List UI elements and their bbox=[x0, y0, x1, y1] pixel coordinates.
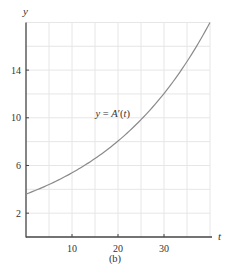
svg-text:2: 2 bbox=[16, 208, 21, 219]
svg-text:10: 10 bbox=[11, 112, 21, 123]
chart: 102030261014 y = A′(t) t y bbox=[0, 0, 230, 279]
svg-text:14: 14 bbox=[11, 65, 21, 76]
tick-labels: 102030261014 bbox=[11, 65, 169, 254]
x-axis-label: t bbox=[218, 230, 222, 242]
y-axis-label: y bbox=[22, 5, 28, 17]
grid bbox=[26, 22, 210, 237]
curve-label: y = A′(t) bbox=[94, 108, 130, 120]
svg-text:6: 6 bbox=[16, 160, 21, 171]
axes bbox=[26, 22, 212, 237]
figure-caption: (b) bbox=[0, 253, 230, 264]
